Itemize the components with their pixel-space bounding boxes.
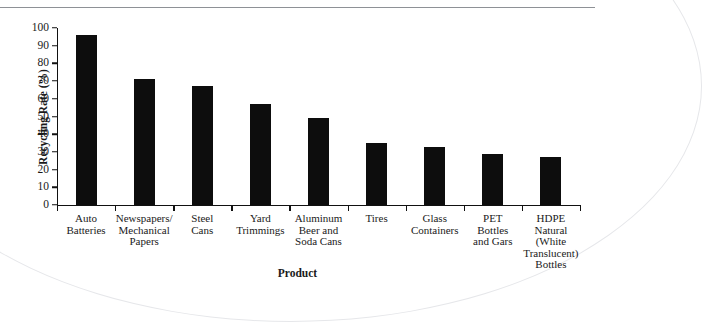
- x-axis-tick: [348, 205, 349, 211]
- bar: [250, 104, 271, 205]
- bar: [308, 118, 329, 205]
- x-axis-category-line: Bottles: [514, 259, 588, 271]
- x-axis-tick: [115, 205, 116, 211]
- x-axis-tick: [173, 205, 174, 211]
- y-axis-tick-mark: [52, 116, 57, 117]
- y-axis-tick-label: 0: [43, 199, 49, 211]
- top-horizontal-rule: [0, 7, 595, 8]
- y-axis-tick-label: 90: [38, 40, 50, 52]
- x-axis-category-label: HDPENatural(WhiteTranslucent)Bottles: [514, 213, 588, 271]
- bar: [482, 154, 503, 205]
- y-axis-tick-label: 30: [38, 146, 50, 158]
- bar: [134, 79, 155, 205]
- plot-area: 0102030405060708090100: [57, 28, 580, 205]
- y-axis-tick: 80: [38, 58, 58, 70]
- y-axis-tick: 50: [38, 111, 58, 123]
- x-axis-line: [57, 205, 581, 206]
- x-axis-tick: [289, 205, 290, 211]
- y-axis-tick-label: 10: [38, 182, 50, 194]
- y-axis-tick: 60: [38, 93, 58, 105]
- y-axis-tick: 40: [38, 128, 58, 140]
- bar: [192, 86, 213, 205]
- y-axis-tick: 10: [38, 182, 58, 194]
- x-axis-tick: [580, 205, 581, 211]
- y-axis-tick-mark: [52, 187, 57, 188]
- y-axis-tick: 0: [43, 199, 57, 211]
- y-axis-tick-label: 60: [38, 93, 50, 105]
- clipped-header-text: [70, 0, 250, 2]
- y-axis-tick-mark: [52, 80, 57, 81]
- bar: [540, 157, 561, 205]
- y-axis-tick-mark: [52, 45, 57, 46]
- y-axis-tick-label: 70: [38, 75, 50, 87]
- y-axis-tick: 90: [38, 40, 58, 52]
- x-axis-tick: [57, 205, 58, 211]
- y-axis-title-wrap: Recycling Rate (%): [26, 28, 28, 206]
- y-axis-tick-label: 20: [38, 164, 50, 176]
- y-axis-tick-label: 80: [38, 58, 50, 70]
- y-axis-tick-mark: [52, 169, 57, 170]
- y-axis-tick: 100: [32, 22, 57, 34]
- x-axis-category-line: Papers: [107, 236, 181, 248]
- y-axis-tick: 70: [38, 75, 58, 87]
- x-axis-title: Product: [0, 267, 595, 279]
- y-axis-tick-label: 50: [38, 111, 50, 123]
- x-axis-tick: [522, 205, 523, 211]
- y-axis-tick-label: 100: [32, 22, 49, 34]
- bar: [76, 35, 97, 205]
- x-axis-tick: [464, 205, 465, 211]
- y-axis-tick-mark: [52, 63, 57, 64]
- y-axis-tick-mark: [52, 134, 57, 135]
- y-axis-tick: 30: [38, 146, 58, 158]
- x-axis-tick: [231, 205, 232, 211]
- y-axis-tick-mark: [52, 151, 57, 152]
- x-axis-tick: [406, 205, 407, 211]
- x-axis-category-line: HDPE: [514, 213, 588, 225]
- y-axis-tick-mark: [52, 98, 57, 99]
- bar: [366, 143, 387, 205]
- y-axis-tick: 20: [38, 164, 58, 176]
- y-axis-tick-label: 40: [38, 128, 50, 140]
- y-axis-tick-mark: [52, 27, 57, 28]
- x-axis-category-line: Soda Cans: [281, 236, 355, 248]
- bar: [424, 147, 445, 205]
